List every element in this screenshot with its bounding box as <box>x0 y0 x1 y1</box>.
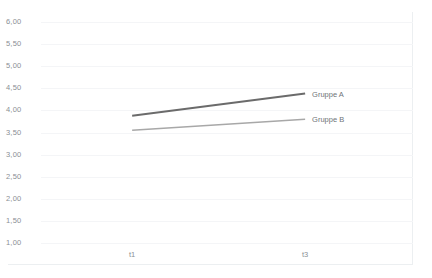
series-label: Gruppe A <box>312 89 344 98</box>
series-lines <box>41 22 413 243</box>
y-axis-tick-label: 5,00 <box>6 61 40 70</box>
y-axis-labels: 6,005,505,004,504,003,503,002,502,001,50… <box>4 22 40 243</box>
y-axis-tick-label: 3,00 <box>6 150 40 159</box>
y-axis-tick-label: 4,50 <box>6 83 40 92</box>
y-axis-tick-label: 6,00 <box>6 17 40 26</box>
y-axis-tick-label: 5,50 <box>6 39 40 48</box>
y-axis-tick-label: 1,00 <box>6 238 40 247</box>
y-axis-tick-label: 2,00 <box>6 194 40 203</box>
series-line <box>132 94 305 116</box>
y-axis-tick-label: 2,50 <box>6 172 40 181</box>
plot-area: Gruppe AGruppe B <box>41 22 413 243</box>
line-chart: 6,005,505,004,504,003,503,002,502,001,50… <box>0 0 432 278</box>
x-axis-labels: t1t3 <box>41 250 413 264</box>
gridline <box>41 243 413 244</box>
y-axis-tick-label: 1,50 <box>6 216 40 225</box>
series-label: Gruppe B <box>312 115 344 124</box>
y-axis-tick-label: 4,00 <box>6 105 40 114</box>
x-axis-tick-label: t3 <box>302 250 308 259</box>
x-axis-tick-label: t1 <box>129 250 135 259</box>
y-axis-tick-label: 3,50 <box>6 128 40 137</box>
series-line <box>132 119 305 130</box>
